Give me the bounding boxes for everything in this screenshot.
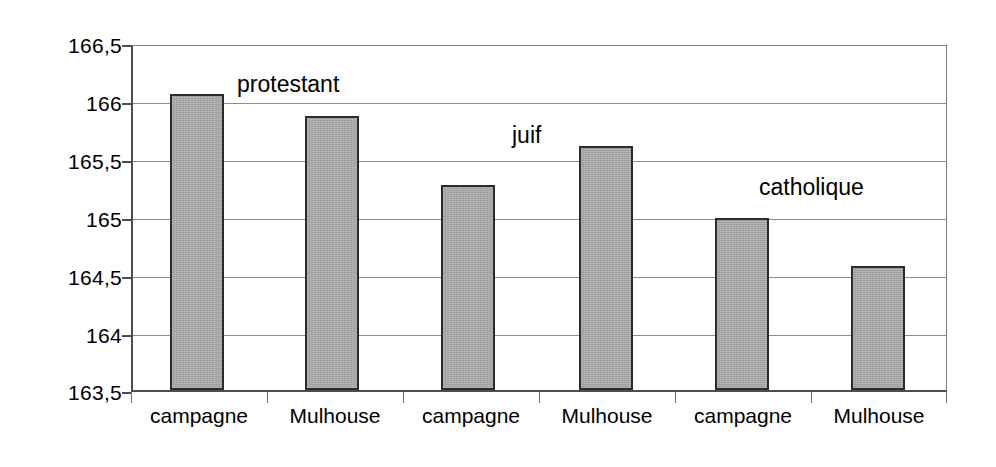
x-tick-label-campagne-2: campagne [403, 404, 539, 428]
y-tick-label: 165,5 [68, 151, 122, 172]
bar [170, 94, 224, 390]
bar [579, 146, 633, 390]
y-axis: 166,5 166 165,5 165 164,5 164 163,5 [0, 0, 122, 467]
x-tick-mark [131, 392, 132, 403]
y-tick-label: 164 [86, 325, 122, 346]
x-tick-mark [675, 392, 676, 403]
gridline [133, 219, 946, 220]
x-axis: campagne Mulhouse campagne Mulhouse camp… [131, 404, 947, 444]
x-tick-label-mulhouse-1: Mulhouse [267, 404, 403, 428]
x-tick-label-mulhouse-2: Mulhouse [539, 404, 675, 428]
group-label-juif: juif [512, 124, 541, 147]
bar [305, 116, 359, 390]
y-tick-label: 164,5 [68, 267, 122, 288]
group-label-protestant: protestant [237, 73, 339, 96]
y-tick-label: 165 [86, 209, 122, 230]
group-label-catholique: catholique [759, 176, 864, 199]
x-tick-label-campagne-1: campagne [131, 404, 267, 428]
gridline [133, 161, 946, 162]
x-tick-label-mulhouse-3: Mulhouse [811, 404, 947, 428]
bar-chart: 166,5 166 165,5 165 164,5 164 163,5 prot… [0, 0, 996, 467]
y-tick-label: 163,5 [68, 382, 122, 403]
x-axis-ticks [131, 392, 947, 404]
y-tick-label: 166 [86, 93, 122, 114]
bar [715, 218, 769, 390]
y-tick-label: 166,5 [68, 35, 122, 56]
gridline [133, 335, 946, 336]
x-tick-mark [403, 392, 404, 403]
plot-area [131, 45, 947, 392]
gridline [133, 277, 946, 278]
x-tick-mark [539, 392, 540, 403]
x-tick-mark [267, 392, 268, 403]
x-tick-mark [946, 392, 947, 403]
bar [441, 185, 495, 390]
x-tick-mark [811, 392, 812, 403]
bar [851, 266, 905, 390]
x-tick-label-campagne-3: campagne [675, 404, 811, 428]
gridline [133, 103, 946, 104]
